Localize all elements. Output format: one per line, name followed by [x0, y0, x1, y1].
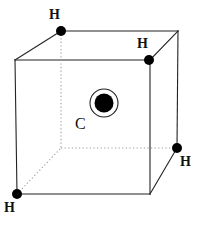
molecule-figure: H H H H C	[0, 0, 202, 226]
cube-edge-solid-8	[150, 148, 177, 194]
atom-dot-h-bottom-front-left	[12, 189, 22, 199]
atom-dot-h-top-back-left	[56, 26, 66, 36]
atom-dot-h-bottom-back-right	[172, 143, 182, 153]
cube-edge-solid-7	[150, 31, 178, 60]
hydrogen-label-bottom-back-right: H	[180, 155, 191, 169]
molecule-diagram	[0, 0, 202, 226]
hydrogen-label-bottom-front-left: H	[4, 201, 15, 215]
cube-solid-edges	[15, 31, 178, 194]
carbon-atom-marker	[90, 89, 118, 117]
carbon-core-dot	[95, 94, 114, 113]
cube-edge-solid-6	[15, 31, 61, 60]
carbon-label: C	[75, 116, 86, 132]
cube-edge-solid-5	[177, 31, 178, 148]
cube-edge-solid-3	[15, 60, 17, 194]
cube-edge-hidden-2	[17, 148, 61, 194]
cube-hidden-edges	[17, 31, 177, 194]
atom-dot-h-top-front-right	[144, 55, 154, 65]
hydrogen-label-top-front-right: H	[137, 37, 148, 51]
hydrogen-label-top-back-left: H	[49, 8, 60, 22]
